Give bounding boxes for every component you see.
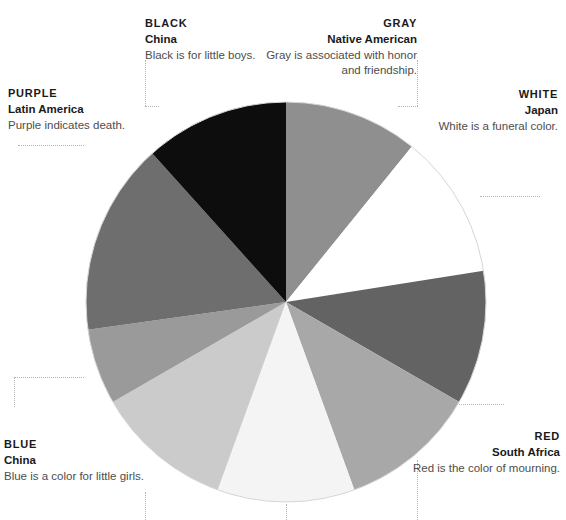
callout-red-place: South Africa — [370, 445, 560, 460]
chart-figure: BLACK China Black is for little boys. GR… — [0, 0, 566, 520]
callout-gray-place: Native American — [257, 32, 417, 47]
leader-line-bottom-center — [286, 504, 287, 520]
callout-red-description: Red is the color of mourning. — [370, 461, 560, 476]
callout-gray: GRAY Native American Gray is associated … — [257, 16, 417, 78]
callout-white-description: White is a funeral color. — [396, 119, 558, 134]
callout-red-color: RED — [370, 429, 560, 444]
callout-blue-place: China — [4, 453, 179, 468]
callout-blue: BLUE China Blue is a color for little gi… — [4, 437, 179, 484]
callout-purple-color: PURPLE — [8, 86, 148, 101]
callout-gray-description: Gray is associated with honor and friend… — [257, 48, 417, 78]
callout-white-color: WHITE — [396, 87, 558, 102]
leader-line-blue — [14, 377, 84, 378]
callout-blue-description: Blue is a color for little girls. — [4, 469, 179, 484]
leader-line-white — [480, 196, 540, 197]
leader-line-purple — [18, 145, 84, 146]
callout-white: WHITE Japan White is a funeral color. — [396, 87, 558, 134]
callout-gray-color: GRAY — [257, 16, 417, 31]
callout-purple: PURPLE Latin America Purple indicates de… — [8, 86, 148, 133]
callout-purple-place: Latin America — [8, 102, 148, 117]
callout-white-place: Japan — [396, 103, 558, 118]
callout-red: RED South Africa Red is the color of mou… — [370, 429, 560, 476]
callout-purple-description: Purple indicates death. — [8, 118, 148, 133]
leader-line-blue-v — [14, 377, 15, 407]
callout-blue-color: BLUE — [4, 437, 179, 452]
